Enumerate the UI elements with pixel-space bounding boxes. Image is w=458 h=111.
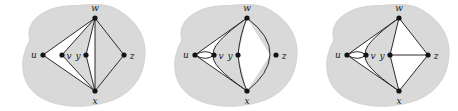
vertex-label-u: u (31, 50, 37, 60)
vertex-x[interactable] (244, 88, 249, 93)
graph-panel-3: u v w x y z (304, 0, 458, 111)
vertex-z[interactable] (121, 52, 126, 57)
vertex-label-u: u (335, 50, 341, 60)
vertex-z[interactable] (273, 52, 278, 57)
vertex-label-v: v (218, 51, 223, 61)
vertex-u[interactable] (40, 52, 45, 57)
vertex-label-y: y (378, 51, 385, 61)
graph-panel-1: u v w x y z (0, 0, 153, 111)
vertex-label-u: u (183, 50, 189, 60)
vertex-label-w: w (395, 3, 403, 13)
vertex-v[interactable] (211, 52, 216, 57)
vertex-x[interactable] (396, 88, 401, 93)
vertex-label-v: v (370, 51, 375, 61)
vertex-label-y: y (226, 51, 233, 61)
vertex-v[interactable] (363, 52, 368, 57)
vertex-y[interactable] (387, 52, 392, 57)
figure-three-graph-embeddings: u v w x y z (0, 0, 458, 111)
vertex-label-x: x (92, 96, 97, 106)
vertex-label-v: v (66, 51, 71, 61)
vertex-u[interactable] (192, 52, 197, 57)
vertex-z[interactable] (425, 52, 430, 57)
vertex-label-z: z (129, 51, 135, 61)
vertex-label-x: x (244, 96, 249, 106)
vertex-y[interactable] (235, 52, 240, 57)
vertex-label-x: x (396, 96, 401, 106)
vertex-w[interactable] (396, 15, 401, 20)
vertex-v[interactable] (59, 52, 64, 57)
vertex-label-z: z (281, 51, 287, 61)
vertex-w[interactable] (244, 15, 249, 20)
vertex-x[interactable] (92, 88, 97, 93)
vertex-u[interactable] (344, 52, 349, 57)
vertex-label-y: y (74, 51, 81, 61)
vertex-label-w: w (243, 3, 251, 13)
vertex-label-z: z (433, 51, 439, 61)
graph-panel-2: u v w x y z (152, 0, 305, 111)
vertex-label-w: w (91, 3, 99, 13)
vertex-y[interactable] (83, 52, 88, 57)
vertex-w[interactable] (92, 15, 97, 20)
